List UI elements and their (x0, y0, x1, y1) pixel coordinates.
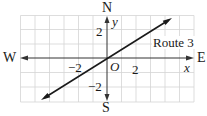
tick-label-y-neg2: −2 (88, 80, 102, 93)
compass-west-label: W (3, 51, 16, 65)
x-axis-label: x (184, 61, 190, 74)
y-axis-label: y (112, 15, 118, 28)
coordinate-plane (0, 0, 207, 116)
tick-label-y-pos2: 2 (96, 25, 103, 38)
tick-label-x-neg2: −2 (68, 61, 82, 74)
route-arrow-end-icon (163, 18, 172, 25)
compass-south-label: S (102, 101, 110, 115)
y-axis-up-arrow-icon (105, 16, 110, 23)
compass-north-label: N (102, 1, 112, 15)
route-label: Route 3 (152, 36, 195, 49)
compass-east-label: E (197, 51, 206, 65)
route-arrow-start-icon (41, 93, 50, 100)
origin-label: O (110, 60, 119, 73)
x-axis-left-arrow-icon (20, 56, 28, 61)
tick-label-x-pos2: 2 (132, 63, 139, 76)
